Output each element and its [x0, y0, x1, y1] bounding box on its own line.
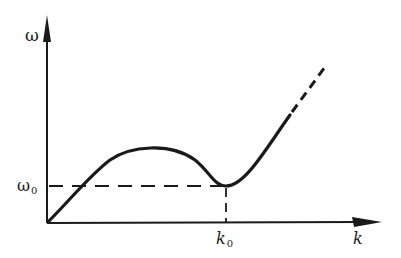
omega0-label: ω0: [17, 176, 37, 196]
x-axis-arrow-icon: [352, 217, 382, 227]
omega0-symbol: ω: [17, 176, 30, 195]
x-axis: [47, 222, 360, 223]
y-axis-label: ω: [25, 25, 39, 45]
x-axis-label: k: [353, 229, 363, 248]
dispersion-curve-extension: [292, 67, 325, 112]
k0-symbol: k: [216, 229, 226, 248]
k0-subscript: 0: [227, 238, 233, 249]
omega0-subscript: 0: [31, 185, 37, 196]
y-axis-arrow-icon: [43, 15, 51, 42]
k0-label: k0: [216, 229, 233, 249]
dispersion-diagram: [0, 0, 401, 258]
dispersion-curve: [48, 115, 290, 222]
